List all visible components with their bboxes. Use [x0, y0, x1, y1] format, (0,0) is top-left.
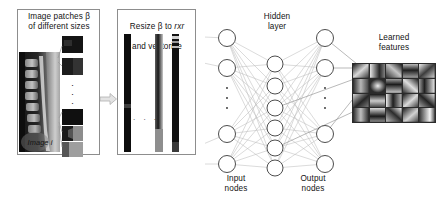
feature-cell — [419, 94, 435, 108]
input-node-1 — [219, 30, 236, 47]
resize-label-part1: Resize β to — [130, 22, 175, 31]
feature-cell — [370, 108, 386, 122]
feature-cell — [370, 79, 386, 93]
input-node-4 — [219, 156, 236, 173]
feature-cell — [419, 79, 435, 93]
feature-cell — [386, 64, 402, 78]
feature-cell — [353, 79, 369, 93]
feature-cell — [403, 94, 419, 108]
figure-canvas: Image patches β of different sizes — [0, 0, 446, 208]
image-patches-label: Image patches β of different sizes — [18, 12, 100, 32]
output-node-1 — [317, 30, 334, 47]
learned-features-grid — [352, 63, 436, 123]
feature-cell — [403, 108, 419, 122]
flow-arrow-right-icon — [100, 92, 117, 106]
hidden-node-4 — [267, 120, 283, 136]
network-edges — [205, 36, 325, 168]
feature-cell — [370, 64, 386, 78]
output-node-3 — [317, 126, 334, 143]
hidden-node-2 — [267, 78, 283, 94]
learned-features-label: Learned features — [357, 33, 431, 53]
hidden-node-6 — [267, 160, 283, 176]
feature-vector-strip-3 — [172, 34, 179, 152]
hidden-node-3 — [267, 100, 283, 116]
output-node-4 — [317, 156, 334, 173]
feature-cell — [353, 64, 369, 78]
output-node-2 — [317, 60, 334, 77]
hidden-node-5 — [267, 140, 283, 156]
neural-network-diagram — [205, 6, 365, 181]
input-node-3 — [219, 126, 236, 143]
vector-ellipsis: . . . — [131, 113, 161, 119]
output-nodes-label: Output nodes — [290, 174, 336, 194]
feature-cell — [403, 64, 419, 78]
feature-cell — [386, 79, 402, 93]
feature-cell — [386, 108, 402, 122]
input-node-2 — [219, 60, 236, 77]
hidden-node-1 — [267, 56, 283, 72]
feature-cell — [353, 108, 369, 122]
patch-leader-lines — [45, 40, 85, 160]
hidden-layer-label: Hidden layer — [254, 12, 300, 32]
feature-cell — [419, 64, 435, 78]
feature-vector-strip-2 — [155, 34, 163, 152]
input-nodes-label: Input nodes — [216, 174, 256, 194]
feature-cell — [386, 94, 402, 108]
resize-label-rxr: rxr — [174, 22, 184, 31]
feature-cell — [370, 94, 386, 108]
feature-vector-strip-1 — [124, 34, 131, 152]
feature-cell — [403, 79, 419, 93]
feature-cell — [353, 94, 369, 108]
feature-cell — [419, 108, 435, 122]
